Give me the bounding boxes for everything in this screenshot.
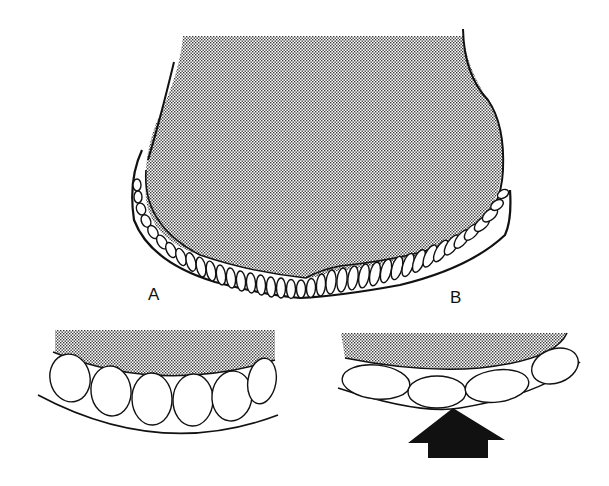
label-b: B [450, 288, 461, 308]
up-arrow-icon [408, 408, 505, 458]
diagram-canvas [0, 0, 609, 486]
main-body [132, 29, 510, 299]
panel-b-compressed-cells [338, 333, 583, 458]
label-a: A [148, 285, 159, 305]
panel-a-uncompressed-cells [38, 330, 280, 433]
